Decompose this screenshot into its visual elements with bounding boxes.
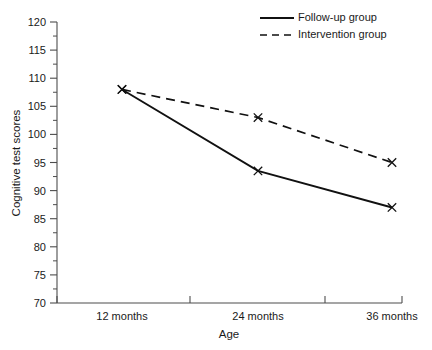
series-line-0: [122, 89, 392, 207]
y-tick-label-120: 120: [28, 16, 46, 28]
series-line-1: [122, 89, 392, 162]
y-axis: 707580859095100105110115120 Cognitive te…: [10, 16, 57, 309]
y-tick-label-90: 90: [34, 185, 46, 197]
y-tick-label-70: 70: [34, 297, 46, 309]
y-tick-label-100: 100: [28, 128, 46, 140]
y-tick-label-75: 75: [34, 269, 46, 281]
series-layer: [118, 85, 396, 211]
y-tick-label-95: 95: [34, 157, 46, 169]
x-tick-label-2: 36 months: [366, 310, 418, 322]
x-tick-label-group: 12 months24 months36 months: [96, 310, 418, 322]
chart-canvas: 707580859095100105110115120 Cognitive te…: [0, 0, 432, 350]
chart-legend: Follow-up groupIntervention group: [260, 11, 387, 40]
x-tick-label-1: 24 months: [232, 310, 284, 322]
y-tick-label-115: 115: [28, 44, 46, 56]
legend-label-0: Follow-up group: [298, 11, 377, 23]
y-tick-label-105: 105: [28, 100, 46, 112]
y-tick-group: [50, 22, 57, 303]
x-axis: 12 months24 months36 months Age: [57, 296, 418, 340]
y-axis-title: Cognitive test scores: [10, 109, 22, 216]
y-tick-label-110: 110: [28, 72, 46, 84]
y-tick-label-80: 80: [34, 241, 46, 253]
y-tick-label-group: 707580859095100105110115120: [28, 16, 46, 309]
x-axis-title: Age: [219, 328, 239, 340]
x-tick-group: [57, 296, 402, 303]
data-point-marker: [388, 158, 396, 166]
x-tick-label-0: 12 months: [96, 310, 148, 322]
legend-label-1: Intervention group: [298, 28, 387, 40]
cognitive-scores-line-chart: 707580859095100105110115120 Cognitive te…: [0, 0, 432, 350]
y-tick-label-85: 85: [34, 213, 46, 225]
